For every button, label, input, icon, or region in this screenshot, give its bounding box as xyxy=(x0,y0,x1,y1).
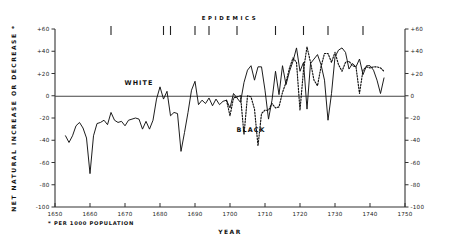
x-tick-label: 1710 xyxy=(257,211,272,217)
series-label-white: WHITE xyxy=(125,79,154,87)
left-tick-label: +40 xyxy=(37,48,50,54)
x-axis-title: YEAR xyxy=(217,228,242,235)
series-label-black: BLACK xyxy=(236,126,265,134)
left-tick-label: -100 xyxy=(36,204,50,210)
x-tick-label: 1650 xyxy=(47,211,62,217)
epidemics-title: EPIDEMICS xyxy=(202,15,259,21)
x-tick-label: 1660 xyxy=(82,211,97,217)
left-tick-label: -60 xyxy=(40,160,50,166)
footnote-label: * PER 1000 POPULATION xyxy=(48,220,134,226)
right-tick-label: +20 xyxy=(411,71,424,77)
left-tick-label: +60 xyxy=(37,26,50,32)
left-tick-label: -40 xyxy=(40,137,50,143)
right-tick-label: -60 xyxy=(411,160,421,166)
right-tick-label: +40 xyxy=(411,48,424,54)
right-tick-label: 0 xyxy=(411,93,415,99)
y-axis-title: NET NATURAL INCREASE OR DECREASE * xyxy=(10,24,17,211)
x-tick-label: 1680 xyxy=(152,211,167,217)
left-tick-label: 0 xyxy=(46,93,50,99)
x-tick-label: 1690 xyxy=(187,211,202,217)
chart-figure: +60+40+200-20-40-60-80-100 +60+40+200-20… xyxy=(0,0,450,245)
right-tick-label: -80 xyxy=(411,182,421,188)
right-tick-label: -100 xyxy=(411,204,425,210)
left-tick-label: -80 xyxy=(40,182,50,188)
x-tick-label: 1750 xyxy=(397,211,412,217)
x-tick-label: 1720 xyxy=(292,211,307,217)
line-chart: +60+40+200-20-40-60-80-100 +60+40+200-20… xyxy=(0,0,450,245)
left-tick-label: -20 xyxy=(40,115,50,121)
right-tick-label: -40 xyxy=(411,137,421,143)
x-tick-label: 1670 xyxy=(117,211,132,217)
x-tick-label: 1730 xyxy=(327,211,342,217)
right-tick-label: -20 xyxy=(411,115,421,121)
right-tick-label: +60 xyxy=(411,26,424,32)
chart-background xyxy=(0,0,450,245)
left-tick-label: +20 xyxy=(37,71,50,77)
x-tick-label: 1740 xyxy=(362,211,377,217)
x-tick-label: 1700 xyxy=(222,211,237,217)
